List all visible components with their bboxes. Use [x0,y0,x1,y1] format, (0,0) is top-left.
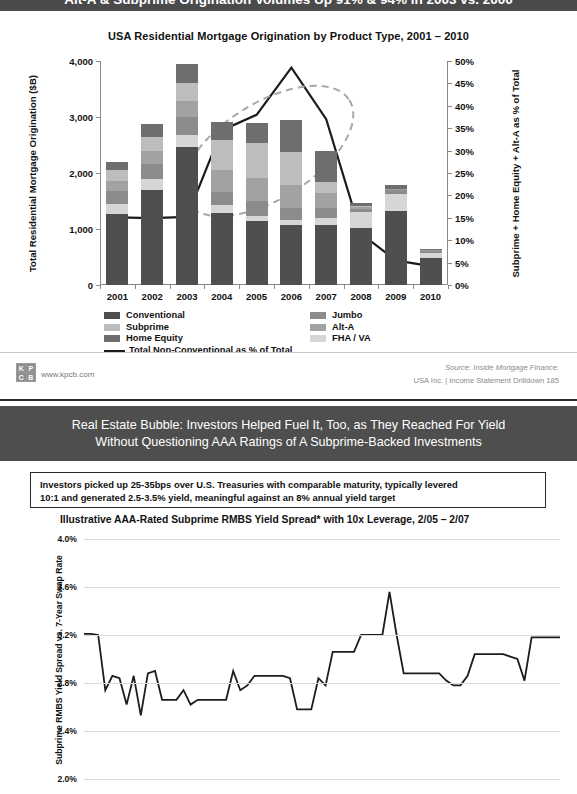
chart1-bar-2006 [280,120,302,285]
chart1-legend-column-right: JumboAlt-AFHA / VA [310,310,371,345]
chart1-bar-segment-conventional [106,214,128,285]
chart1-bar-segment-conventional [280,225,302,285]
chart1-bar-segment-alt-a [176,101,198,117]
chart1-title: USA Residential Mortgage Origination by … [0,30,577,42]
legend-swatch-icon [310,312,326,319]
slide-real-estate-bubble: Real Estate Bubble: Investors Helped Fue… [0,406,577,794]
chart1-bar-2002 [141,124,163,285]
chart2-yield-spread-line [84,592,560,716]
chart1-bar-segment-conventional [350,228,372,285]
chart2-gridline [84,779,560,780]
chart1-right-tick [448,173,452,174]
slide1-title-banner: Alt-A & Subprime Origination Volumes Up … [0,0,577,11]
chart1-legend-label: FHA / VA [332,334,371,343]
chart1-x-label-2006: 2006 [281,291,302,302]
chart1-left-tick-label: 2,000 [69,168,93,179]
chart1-bar-segment-fha-va [141,179,163,189]
chart1-bar-segment-jumbo [211,192,233,205]
chart1-bar-segment-subprime [280,152,302,186]
chart1-bar-segment-alt-a [280,185,302,207]
chart2-gridline [84,683,560,684]
callout-line2: 10:1 and generated 2.5-3.5% yield, meani… [40,491,537,504]
chart1-bar-2005 [246,123,268,285]
chart1-bar-segment-fha-va [385,194,407,211]
chart1-x-label-2003: 2003 [176,291,197,302]
chart1-right-tick [448,61,452,62]
chart1-bar-segment-jumbo [315,208,337,218]
chart2-y-tick-label: 4.0% [57,534,77,544]
kpcb-logo-icon: KPCB [16,363,36,382]
chart2-line-series [84,539,560,779]
chart1-plot-area: 01,0002,0003,0004,0000%5%10%15%20%25%30%… [100,61,448,285]
chart1-right-tick-label: 30% [455,145,474,156]
chart2-gridline [84,731,560,732]
slide1-banner-title: Alt-A & Subprime Origination Volumes Up … [64,0,513,7]
chart1-legend-item-jumbo: Jumbo [310,310,371,322]
chart1-left-tick [96,61,100,62]
kpcb-url-link[interactable]: www.kpcb.com [41,370,94,379]
chart1-y-axis-left-title-text: Total Residential Mortgage Origination (… [28,74,39,271]
chart1-bar-segment-fha-va [176,135,198,147]
slide2-callout-box: Investors picked up 25-35bps over U.S. T… [30,472,546,508]
chart1-legend-item-subprime: Subprime [104,322,185,334]
chart1-right-tick-label: 40% [455,100,474,111]
chart1-x-tick [309,285,310,289]
chart1-x-tick [135,285,136,289]
kpcb-logo-cell-b: B [27,373,36,381]
chart1-bar-segment-jumbo [246,201,268,217]
chart1-x-tick [204,285,205,289]
chart1-bar-segment-conventional [246,221,268,285]
chart1-bar-segment-subprime [176,83,198,101]
chart1-bar-2007 [315,151,337,285]
chart1-right-tick [448,106,452,107]
chart1-x-tick [448,285,449,289]
chart1-legend-label: Jumbo [332,311,362,320]
chart1-bar-segment-fha-va [211,205,233,213]
chart1-bar-2010 [420,249,442,285]
chart1-bar-segment-conventional [211,213,233,285]
chart1-x-tick [378,285,379,289]
slide2-title-banner: Real Estate Bubble: Investors Helped Fue… [0,406,577,461]
chart1-bar-segment-home-equity [280,120,302,151]
slide-mortgage-origination: Alt-A & Subprime Origination Volumes Up … [0,0,577,400]
kpcb-logo-cell-k: K [17,364,26,372]
chart1-x-label-2010: 2010 [420,291,441,302]
slide1-body: USA Residential Mortgage Origination by … [0,11,577,351]
chart1-bar-segment-home-equity [211,122,233,140]
chart1-nonconventional-share-line [117,68,430,267]
chart1-x-label-2001: 2001 [107,291,128,302]
chart1-right-tick [448,240,452,241]
chart1-x-tick [170,285,171,289]
chart1-bar-segment-subprime [315,182,337,193]
chart2-gridline [84,539,560,540]
chart1-bar-segment-jumbo [176,117,198,135]
legend-swatch-icon [310,335,326,342]
chart1-x-label-2007: 2007 [316,291,337,302]
chart1-source-note: Source: Inside Mortgage Finance. [445,363,559,372]
chart1-left-tick [96,229,100,230]
slide2-banner-line2: Without Questioning AAA Ratings of A Sub… [95,434,481,451]
chart1-bar-segment-jumbo [106,191,128,204]
chart1-y-axis-right-title-text: Subprime + Home Equity + Alt-A as % of T… [510,69,521,277]
chart1-y-axis-left-title: Total Residential Mortgage Origination (… [26,61,40,285]
chart1-bar-segment-home-equity [246,123,268,143]
chart1-bar-2008 [350,203,372,285]
chart2-title: Illustrative AAA-Rated Subprime RMBS Yie… [60,514,469,525]
chart1-bar-segment-alt-a [211,170,233,192]
chart2-y-tick-label: 3.6% [57,582,77,592]
chart2-y-tick-label: 2.0% [57,774,77,784]
chart1-right-tick-label: 45% [455,78,474,89]
slide-separator [0,399,577,401]
chart1-right-tick [448,151,452,152]
chart2-plot-area: 2.0%2.4%2.8%3.2%3.6%4.0% [84,539,560,779]
chart1-right-tick-label: 50% [455,56,474,67]
chart1-bar-segment-conventional [176,147,198,285]
slide1-deck-footer: USA Inc. | Income Statement Drilldown 18… [414,376,559,385]
chart1-bar-segment-subprime [106,170,128,181]
chart1-x-label-2009: 2009 [385,291,406,302]
chart2-y-tick-label: 2.8% [57,678,77,688]
chart1-right-tick [448,218,452,219]
legend-swatch-icon [310,324,326,331]
chart1-bar-segment-subprime [141,137,163,150]
chart1-legend-label: Conventional [126,311,185,320]
